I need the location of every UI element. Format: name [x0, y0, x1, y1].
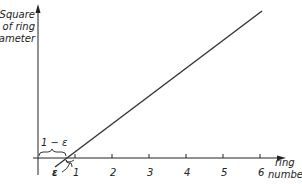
- eps-pointer: [62, 163, 70, 172]
- x-axis-label-line2: number: [268, 169, 302, 180]
- tick-5: 5: [221, 167, 227, 178]
- y-axis-arrow-icon: [36, 4, 41, 13]
- data-line: [55, 11, 262, 167]
- y-axis-label-line2: of ring: [3, 21, 35, 32]
- tick-2: 2: [110, 167, 116, 178]
- label-one-minus-eps: 1 − ε: [41, 137, 68, 148]
- y-axis-label-line3: diameter: [0, 33, 36, 44]
- tick-3: 3: [147, 167, 153, 178]
- x-ticks: [75, 154, 260, 158]
- brace-one-minus-eps: [39, 149, 66, 156]
- chart: 1 2 3 4 5 6 1 − ε ε Square of ring diame…: [0, 0, 302, 184]
- label-eps: ε: [52, 167, 58, 178]
- tick-4: 4: [184, 167, 190, 178]
- tick-6: 6: [258, 167, 264, 178]
- y-axis-label-line1: Square: [0, 9, 35, 20]
- x-axis-label-line1: ring: [275, 157, 295, 168]
- tick-1: 1: [73, 167, 79, 178]
- brace-eps-curve: [66, 160, 74, 162]
